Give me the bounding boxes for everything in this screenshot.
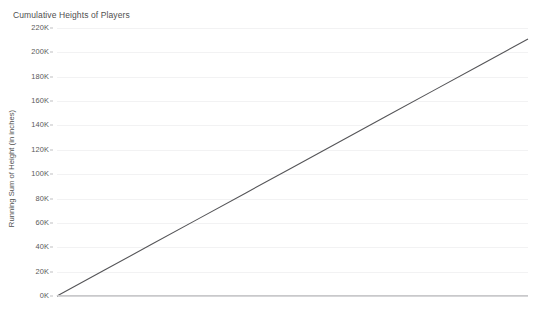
y-axis-tick-mark bbox=[50, 76, 53, 77]
y-axis-tick-mark bbox=[50, 222, 53, 223]
y-axis-tick-label: 20K bbox=[36, 268, 49, 276]
data-series-layer bbox=[57, 28, 528, 296]
y-axis-tick-label: 0K bbox=[40, 292, 49, 300]
y-axis-tick-mark bbox=[50, 296, 53, 297]
gridline bbox=[57, 296, 528, 297]
y-axis-tick-label: 80K bbox=[36, 195, 49, 203]
y-axis-tick-label: 180K bbox=[31, 73, 49, 81]
y-axis-tick-mark bbox=[50, 101, 53, 102]
y-axis-tick-label: 60K bbox=[36, 219, 49, 227]
y-axis-tick-mark bbox=[50, 52, 53, 53]
y-axis-tick-mark bbox=[50, 247, 53, 248]
series-line bbox=[57, 39, 528, 296]
y-axis-tick-label: 100K bbox=[31, 170, 49, 178]
y-axis-tick-mark bbox=[50, 198, 53, 199]
y-axis-tick-label: 160K bbox=[31, 97, 49, 105]
y-axis-tick-mark bbox=[50, 28, 53, 29]
y-axis-tick-labels: 220K200K180K160K140K120K100K80K60K40K20K… bbox=[0, 28, 53, 296]
y-axis-tick-mark bbox=[50, 271, 53, 272]
chart-container: Cumulative Heights of Players Running Su… bbox=[0, 0, 540, 314]
y-axis-tick-mark bbox=[50, 125, 53, 126]
plot-area bbox=[57, 28, 528, 296]
y-axis-tick-label: 140K bbox=[31, 121, 49, 129]
chart-title: Cumulative Heights of Players bbox=[13, 10, 130, 21]
y-axis-tick-mark bbox=[50, 149, 53, 150]
y-axis-tick-label: 120K bbox=[31, 146, 49, 154]
y-axis-tick-label: 200K bbox=[31, 48, 49, 56]
x-axis-line bbox=[57, 295, 528, 296]
y-axis-tick-mark bbox=[50, 174, 53, 175]
y-axis-tick-label: 40K bbox=[36, 243, 49, 251]
y-axis-tick-label: 220K bbox=[31, 24, 49, 32]
